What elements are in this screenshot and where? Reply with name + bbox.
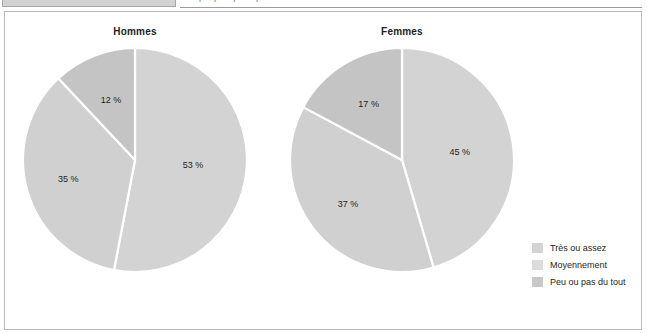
legend-swatch-icon xyxy=(532,260,543,270)
pie-title-hommes: Hommes xyxy=(19,26,251,37)
pie-slice-label: 45 % xyxy=(449,147,470,157)
header-rule xyxy=(180,7,642,8)
legend-item-moyennement: Moyennement xyxy=(532,256,642,273)
legend-swatch-icon xyxy=(532,277,543,287)
legend-item-label: Moyennement xyxy=(550,260,607,270)
pie-slice-label: 35 % xyxy=(58,174,79,184)
chart-frame: Hommes 53 %35 %12 % Femmes 45 %37 %17 % … xyxy=(4,11,642,330)
legend-swatch-icon xyxy=(532,243,543,253)
clipped-caption-text: Graphique : perception de la santé selon… xyxy=(184,0,640,4)
pie-slice-label: 17 % xyxy=(358,99,379,109)
legend-item-label: Peu ou pas du tout xyxy=(550,277,626,287)
pie-svg-hommes xyxy=(19,44,251,276)
legend-item-peu-ou-pas-du-tout: Peu ou pas du tout xyxy=(532,273,642,290)
legend: Très ou assez Moyennement Peu ou pas du … xyxy=(532,239,642,290)
pie-slice-label: 53 % xyxy=(183,160,204,170)
legend-item-tres-ou-assez: Très ou assez xyxy=(532,239,642,256)
pie-title-femmes: Femmes xyxy=(286,26,518,37)
pie-slice-label: 37 % xyxy=(338,199,359,209)
legend-item-label: Très ou assez xyxy=(550,243,606,253)
pie-slice-label: 12 % xyxy=(101,95,122,105)
pie-svg-femmes xyxy=(286,44,518,276)
header-cell xyxy=(2,0,176,7)
clipped-header-strip: Graphique : perception de la santé selon… xyxy=(0,0,647,9)
pie-canvas-femmes: 45 %37 %17 % xyxy=(286,44,518,276)
pie-canvas-hommes: 53 %35 %12 % xyxy=(19,44,251,276)
